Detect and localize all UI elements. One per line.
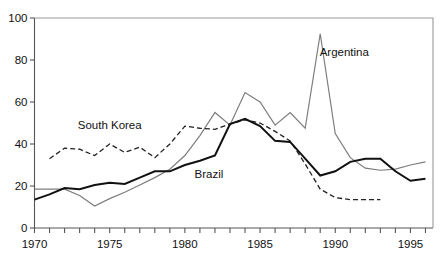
x-tick-label-1980: 1980 <box>172 238 198 250</box>
y-tick-label-60: 60 <box>15 96 28 108</box>
series-label-south-korea: South Korea <box>78 119 143 131</box>
x-tick-label-1970: 1970 <box>22 238 48 250</box>
y-tick-label-80: 80 <box>15 54 28 66</box>
y-axis-tick-labels: 020406080100 <box>8 12 27 234</box>
y-tick-label-40: 40 <box>15 138 28 150</box>
series-label-brazil: Brazil <box>195 168 224 180</box>
y-tick-label-20: 20 <box>15 180 28 192</box>
series-line-south-korea <box>50 120 381 200</box>
y-tick-label-100: 100 <box>8 12 27 24</box>
x-axis-tick-labels: 197019751980198519901995 <box>22 238 424 250</box>
x-axis-ticks <box>35 228 426 233</box>
x-tick-label-1985: 1985 <box>247 238 273 250</box>
series-label-argentina: Argentina <box>320 46 370 58</box>
y-axis-ticks <box>30 18 35 228</box>
y-tick-label-0: 0 <box>21 222 27 234</box>
series-annotation-labels: ArgentinaSouth KoreaBrazil <box>78 46 370 180</box>
line-chart-figure: 020406080100 197019751980198519901995 Ar… <box>0 0 445 258</box>
x-tick-label-1995: 1995 <box>398 238 424 250</box>
x-tick-label-1990: 1990 <box>322 238 348 250</box>
chart-canvas: 020406080100 197019751980198519901995 Ar… <box>0 0 445 258</box>
x-tick-label-1975: 1975 <box>97 238 123 250</box>
